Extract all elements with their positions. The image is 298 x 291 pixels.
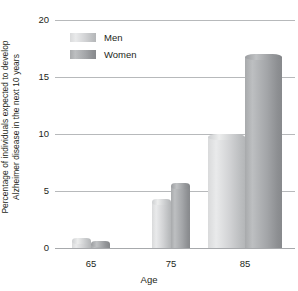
- x-axis-line: [55, 248, 295, 249]
- y-axis-title-line2: Alzheimer disease in the next 10 years: [11, 2, 22, 252]
- bar-men-85: [208, 137, 245, 248]
- bar-cap: [208, 134, 245, 140]
- y-tick-label-15: 15: [9, 71, 49, 82]
- y-tick-label-0: 0: [9, 242, 49, 253]
- x-tick-label-75: 75: [151, 258, 191, 269]
- legend-label-men: Men: [104, 32, 122, 43]
- legend-item-men: Men: [70, 30, 137, 45]
- bar-cap: [91, 241, 110, 247]
- bar-women-65: [91, 244, 110, 248]
- legend-swatch-women: [70, 50, 96, 59]
- bar-chart: Percentage of individuals expected to de…: [0, 0, 298, 291]
- y-tick-label-20: 20: [9, 14, 49, 25]
- legend-swatch-men: [70, 33, 96, 42]
- bar-women-75: [171, 186, 190, 248]
- bar-cap: [245, 54, 282, 60]
- legend: Men Women: [70, 30, 137, 64]
- x-tick-label-65: 65: [71, 258, 111, 269]
- legend-item-women: Women: [70, 47, 137, 62]
- bar-men-75: [152, 202, 171, 248]
- x-axis-title: Age: [0, 274, 298, 285]
- x-tick-label-85: 85: [225, 258, 265, 269]
- bar-cap: [72, 238, 91, 244]
- bar-cap: [152, 199, 171, 205]
- legend-label-women: Women: [104, 49, 137, 60]
- gridline-20: [55, 20, 295, 21]
- bar-women-85: [245, 57, 282, 248]
- bar-men-65: [72, 241, 91, 248]
- y-tick-label-5: 5: [9, 185, 49, 196]
- y-tick-label-10: 10: [9, 128, 49, 139]
- bar-cap: [171, 183, 190, 189]
